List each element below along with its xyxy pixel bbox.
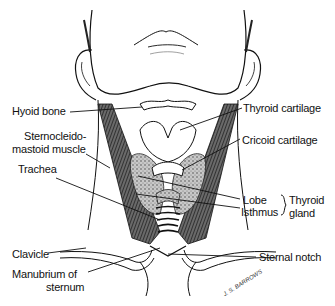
label-sternal-notch: Sternal notch [259,251,321,263]
neck-anatomy-diagram: Hyoid bone Sternocleido- mastoid muscle … [0,0,335,306]
hyoid-bone [140,100,196,110]
label-thyroid-gland-line2: gland [289,207,315,219]
label-clavicle: Clavicle [12,248,49,260]
label-thyroid-gland-line1: Thyroid [289,194,324,206]
label-sternocleidomastoid-line1: Sternocleido- [24,130,86,142]
label-manubrium-line1: Manubrium of [12,268,77,280]
label-thyroid-cartilage: Thyroid cartilage [243,102,321,114]
manubrium [140,262,196,296]
cricoid-cartilage [152,162,184,176]
label-cricoid-cartilage: Cricoid cartilage [242,134,317,146]
label-sternocleidomastoid-line2: mastoid muscle [12,143,86,155]
label-isthmus: Isthmus [241,206,278,218]
label-hyoid-bone: Hyoid bone [12,105,66,117]
thyroid-brace [281,195,286,215]
label-lobe: Lobe [243,194,267,206]
label-trachea: Trachea [18,163,57,175]
head-outline [76,10,261,100]
label-manubrium-line2: sternum [46,281,84,293]
